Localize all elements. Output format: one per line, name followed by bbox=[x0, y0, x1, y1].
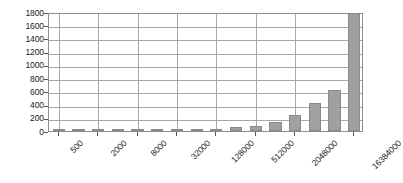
x-axis-tick-label: 16384000 bbox=[370, 138, 403, 171]
bar bbox=[210, 129, 222, 132]
y-axis-tick-label: 1800 bbox=[0, 9, 44, 18]
x-axis-tick-label: 128000 bbox=[229, 138, 256, 165]
x-axis-tick-label: 512000 bbox=[269, 138, 296, 165]
bar bbox=[289, 115, 301, 131]
x-axis-tick-mark bbox=[215, 132, 216, 136]
y-axis-tick-label: 1200 bbox=[0, 48, 44, 57]
y-axis-tick-label: 1600 bbox=[0, 22, 44, 31]
bar bbox=[269, 122, 281, 131]
x-axis-tick-label: 32000 bbox=[189, 138, 212, 161]
y-axis-tick-label: 1400 bbox=[0, 35, 44, 44]
x-axis-tick-label: 2048000 bbox=[310, 138, 340, 168]
bars-layer bbox=[49, 14, 362, 131]
bar bbox=[151, 129, 163, 131]
x-axis-tick-label: 8000 bbox=[148, 138, 168, 158]
bar bbox=[53, 129, 65, 131]
y-axis-tick-label: 400 bbox=[0, 101, 44, 110]
y-axis-tick-label: 1000 bbox=[0, 61, 44, 70]
x-axis-tick-label: 2000 bbox=[109, 138, 129, 158]
plot-area bbox=[48, 13, 363, 132]
bar bbox=[309, 103, 321, 131]
bar bbox=[250, 126, 262, 131]
bar bbox=[92, 129, 104, 131]
y-axis-tick-label: 200 bbox=[0, 114, 44, 123]
bar bbox=[230, 127, 242, 131]
x-axis-tick-mark bbox=[176, 132, 177, 136]
bar bbox=[112, 129, 124, 131]
x-axis: 5002000800032000128000512000204800016384… bbox=[0, 132, 378, 183]
y-axis-tick-label: 800 bbox=[0, 75, 44, 84]
bar bbox=[72, 129, 84, 131]
x-axis-tick-mark bbox=[58, 132, 59, 136]
y-axis-tick-label: 600 bbox=[0, 88, 44, 97]
x-axis-tick-label: 500 bbox=[68, 138, 85, 155]
bar bbox=[191, 129, 203, 131]
x-axis-tick-mark bbox=[255, 132, 256, 136]
x-axis-tick-mark bbox=[97, 132, 98, 136]
x-axis-tick-mark bbox=[137, 132, 138, 136]
bar bbox=[328, 90, 340, 131]
x-axis-tick-mark bbox=[353, 132, 354, 136]
bar bbox=[348, 13, 360, 131]
bar bbox=[131, 129, 143, 131]
bar bbox=[171, 129, 183, 131]
x-axis-tick-mark bbox=[294, 132, 295, 136]
